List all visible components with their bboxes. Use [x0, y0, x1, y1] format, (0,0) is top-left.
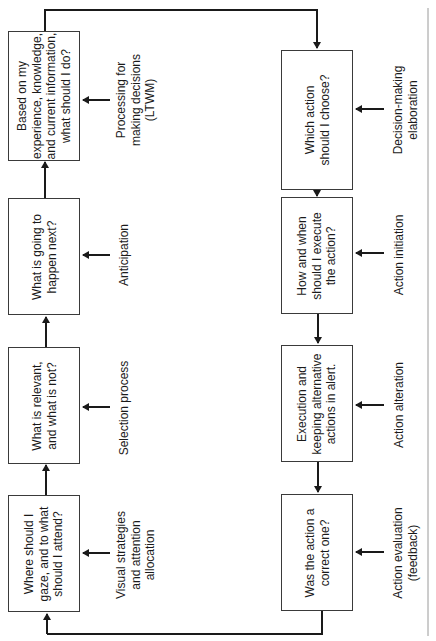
- box-execution-alert: Execution and keeping alternative action…: [281, 345, 353, 462]
- box-text: Where should I gaze, and to what should …: [22, 496, 66, 611]
- box-text: Was the action a correct one?: [303, 495, 332, 610]
- label-action-evaluation: Action evaluation (feedback): [387, 500, 423, 605]
- box-visual-strategies: Where should I gaze, and to what should …: [8, 495, 80, 612]
- box-selection: What is relevant, and what is not?: [8, 347, 80, 464]
- box-text: Based on my experience, knowledge, and c…: [15, 32, 73, 160]
- label-visual-strategies: Visual strategies and attention allocati…: [112, 505, 160, 605]
- box-anticipation: What is going to happen next?: [8, 198, 80, 315]
- box-text: What is going to happen next?: [30, 199, 59, 314]
- box-text: Which action should I choose?: [303, 51, 332, 189]
- box-text: Execution and keeping alternative action…: [295, 346, 339, 461]
- box-choose-action: Which action should I choose?: [281, 50, 353, 190]
- label-decision-elaboration: Decision-making elaboration: [387, 55, 423, 165]
- box-evaluation: Was the action a correct one?: [281, 494, 353, 611]
- box-decision-processing: Based on my experience, knowledge, and c…: [8, 31, 80, 161]
- label-action-initiation: Action initiation: [387, 200, 411, 310]
- label-anticipation: Anticipation: [112, 200, 136, 310]
- label-selection-process: Selection process: [112, 350, 136, 465]
- box-execute-action: How and when should I execute the action…: [281, 197, 353, 314]
- box-text: How and when should I execute the action…: [295, 198, 339, 313]
- label-action-alteration: Action alteration: [387, 350, 411, 460]
- box-text: What is relevant, and what is not?: [30, 348, 59, 463]
- label-processing-decisions: Processing for making decisions (LTWM): [112, 40, 160, 160]
